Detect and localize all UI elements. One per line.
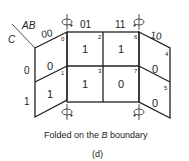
cell-value-0: 0 xyxy=(47,60,53,72)
fold-rotation-icon xyxy=(133,104,144,120)
caption: Folded on the B boundary xyxy=(44,130,148,140)
cell-value-5: 0 xyxy=(152,97,158,109)
col-header-10: 10 xyxy=(150,29,163,42)
minterm-5: 5 xyxy=(164,85,168,91)
minterm-0: 0 xyxy=(61,36,65,42)
minterm-6: 6 xyxy=(134,34,138,40)
label-ab: AB xyxy=(21,20,36,31)
folded-karnaugh-map: AB C 00 01 11 10 0 1 0 2 6 4 1 3 7 5 0 1… xyxy=(0,0,189,161)
cell-value-1: 1 xyxy=(47,88,53,100)
cell-value-7: 0 xyxy=(118,78,124,90)
sublabel: (d) xyxy=(92,149,103,159)
minterm-4: 4 xyxy=(165,51,169,57)
minterm-1: 1 xyxy=(61,70,65,76)
fold-rotation-icon xyxy=(62,14,73,30)
col-header-00: 00 xyxy=(40,27,53,40)
minterm-7: 7 xyxy=(134,68,138,74)
row-header-1: 1 xyxy=(24,96,30,107)
row-header-0: 0 xyxy=(24,65,30,76)
minterm-3: 3 xyxy=(98,68,102,74)
cell-value-3: 1 xyxy=(82,78,88,90)
cell-value-4: 0 xyxy=(152,63,158,75)
fold-rotation-icon xyxy=(133,14,144,30)
cell-value-6: 1 xyxy=(118,43,124,55)
col-header-01: 01 xyxy=(80,19,92,30)
minterm-2: 2 xyxy=(98,34,102,40)
col-header-11: 11 xyxy=(115,19,126,30)
fold-rotation-icon xyxy=(62,104,73,120)
label-c: C xyxy=(8,34,16,45)
cell-value-2: 1 xyxy=(82,43,88,55)
